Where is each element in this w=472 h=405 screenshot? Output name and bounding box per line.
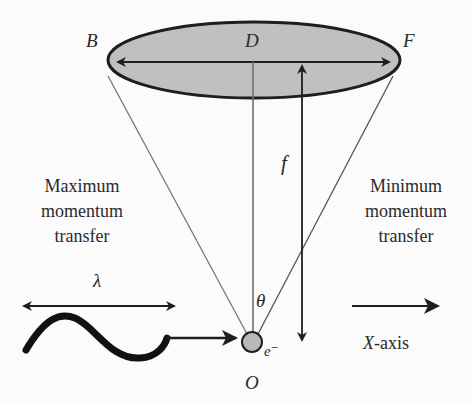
min-line-2: momentum: [346, 199, 466, 224]
x-axis-var: X: [363, 333, 374, 353]
lambda-label: λ: [93, 270, 101, 292]
theta-label: θ: [256, 290, 265, 312]
point-d-label: D: [245, 30, 259, 52]
x-axis-suffix: -axis: [374, 333, 409, 353]
point-o-label: O: [245, 372, 259, 394]
electron-label: e⁻: [264, 340, 279, 362]
max-line-1: Maximum: [22, 174, 142, 199]
min-line-3: transfer: [346, 224, 466, 249]
max-line-3: transfer: [22, 224, 142, 249]
point-b-label: B: [86, 30, 98, 52]
incoming-wave: [26, 316, 167, 358]
electron: [242, 332, 262, 352]
focal-length-label: f: [281, 152, 287, 174]
x-axis-label: X-axis: [363, 332, 409, 354]
max-momentum-label: Maximum momentum transfer: [22, 174, 142, 249]
min-line-1: Minimum: [346, 174, 466, 199]
max-line-2: momentum: [22, 199, 142, 224]
electron-scattering-diagram: B D F f θ λ e⁻ O Maximum momentum transf…: [0, 0, 472, 405]
point-f-label: F: [403, 30, 415, 52]
min-momentum-label: Minimum momentum transfer: [346, 174, 466, 249]
